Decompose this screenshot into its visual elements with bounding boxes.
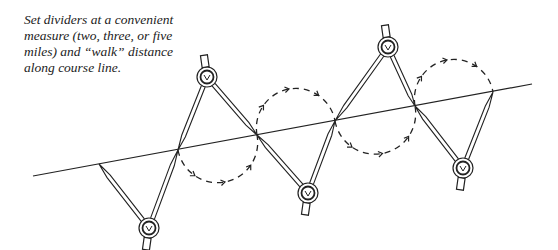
divider-icon — [415, 92, 493, 190]
dividers-group — [99, 25, 493, 250]
divider-icon — [257, 121, 335, 215]
walk-arcs — [178, 58, 493, 186]
divider-icon — [178, 55, 257, 150]
divider-icon — [99, 150, 178, 250]
dividers-diagram — [0, 0, 558, 250]
divider-icon — [335, 25, 415, 121]
